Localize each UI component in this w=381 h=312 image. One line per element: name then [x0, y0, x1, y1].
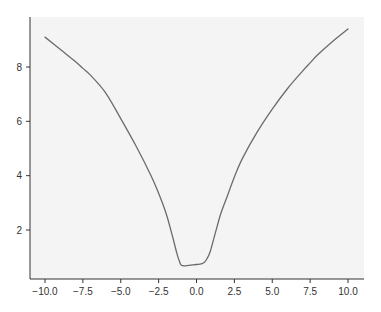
y-tick-label: 2	[16, 225, 22, 236]
x-tick-label: −5.0	[111, 286, 131, 297]
plot-area	[30, 17, 364, 279]
y-tick-label: 8	[16, 62, 22, 73]
x-tick-label: 10.0	[338, 286, 358, 297]
x-tick-label: −2.5	[149, 286, 169, 297]
x-tick-label: −10.0	[32, 286, 58, 297]
x-axis-ticks: −10.0−7.5−5.0−2.50.02.55.07.510.0	[32, 279, 358, 297]
x-tick-label: 7.5	[303, 286, 317, 297]
x-tick-label: 2.5	[227, 286, 241, 297]
y-axis-ticks: 2468	[16, 62, 30, 236]
y-tick-label: 4	[16, 170, 22, 181]
x-tick-label: 0.0	[190, 286, 204, 297]
line-chart: −10.0−7.5−5.0−2.50.02.55.07.510.0 2468	[0, 0, 381, 312]
x-tick-label: −7.5	[73, 286, 93, 297]
x-tick-label: 5.0	[265, 286, 279, 297]
y-tick-label: 6	[16, 116, 22, 127]
